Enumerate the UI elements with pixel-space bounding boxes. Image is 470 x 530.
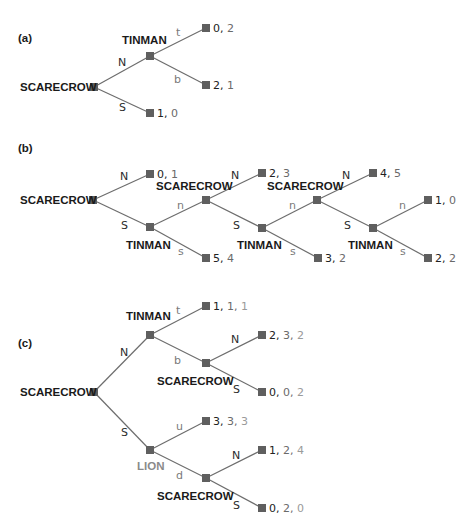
panel-b: (b) SCARECROW TINMAN SCARECROW TINMAN SC xyxy=(18,142,456,265)
terminal-node xyxy=(424,254,432,262)
move-label: S xyxy=(121,426,128,439)
panel-c: (c) SCARECROW TINMAN SCARECROW LION SCAR… xyxy=(18,300,304,515)
player-label-tinman: TINMAN xyxy=(348,239,393,251)
panel-b-label: (b) xyxy=(18,142,33,154)
payoff: 5, 4 xyxy=(213,252,234,265)
edge xyxy=(94,392,150,450)
decision-node-lion xyxy=(146,446,154,454)
move-label: d xyxy=(176,469,183,482)
terminal-node xyxy=(258,331,266,339)
payoff: 0, 2 xyxy=(213,22,234,35)
terminal-node xyxy=(202,254,210,262)
move-label: s xyxy=(400,245,406,258)
decision-node-scarecrow xyxy=(202,474,210,482)
move-label: S xyxy=(233,499,240,512)
payoff: 2, 3, 2 xyxy=(269,329,304,342)
player-label-scarecrow: SCARECROW xyxy=(157,490,234,502)
payoff: 0, 0, 2 xyxy=(269,386,304,399)
move-label: N xyxy=(231,169,239,182)
terminal-node xyxy=(369,169,377,177)
payoff: 4, 5 xyxy=(380,167,401,180)
terminal-node xyxy=(314,254,322,262)
terminal-node xyxy=(258,446,266,454)
move-label: N xyxy=(120,170,128,183)
move-label: n xyxy=(399,199,406,212)
move-label: S xyxy=(233,219,240,232)
decision-node-tinman xyxy=(146,52,154,60)
move-label: b xyxy=(174,354,181,367)
terminal-node xyxy=(202,24,210,32)
move-label: S xyxy=(344,219,351,232)
player-label-tinman: TINMAN xyxy=(122,34,167,46)
move-label: b xyxy=(174,73,181,86)
terminal-node xyxy=(424,196,432,204)
move-label: t xyxy=(176,304,181,317)
move-label: N xyxy=(342,169,350,182)
move-label: s xyxy=(178,245,184,258)
game-trees-figure: (a) SCARECROW TINMAN N S t b 0, 2 2, 1 1… xyxy=(0,0,470,530)
payoff: 1, 2, 4 xyxy=(269,444,304,457)
player-label-scarecrow: SCARECROW xyxy=(156,180,233,192)
move-label: s xyxy=(290,245,296,258)
move-label: N xyxy=(231,333,239,346)
player-label-scarecrow: SCARECROW xyxy=(20,194,97,206)
move-label: n xyxy=(289,199,296,212)
payoff: 2, 1 xyxy=(213,79,234,92)
terminal-node xyxy=(258,388,266,396)
terminal-node xyxy=(258,504,266,512)
move-label: N xyxy=(118,56,126,69)
player-label-scarecrow: SCARECROW xyxy=(20,386,97,398)
terminal-node xyxy=(202,417,210,425)
move-label: u xyxy=(176,420,183,433)
move-label: S xyxy=(121,219,128,232)
player-label-scarecrow: SCARECROW xyxy=(267,180,344,192)
terminal-node xyxy=(146,109,154,117)
decision-node-scarecrow xyxy=(202,196,210,204)
decision-node-scarecrow xyxy=(202,359,210,367)
terminal-node xyxy=(202,81,210,89)
panel-c-label: (c) xyxy=(18,337,32,349)
edge xyxy=(94,335,150,392)
payoff: 2, 3 xyxy=(269,167,290,180)
payoff: 0, 1 xyxy=(157,168,178,181)
move-label: S xyxy=(233,383,240,396)
terminal-node xyxy=(202,302,210,310)
terminal-node xyxy=(258,169,266,177)
decision-node-tinman xyxy=(369,224,377,232)
move-label: N xyxy=(120,346,128,359)
player-label-scarecrow: SCARECROW xyxy=(20,81,97,93)
payoff: 1, 1, 1 xyxy=(213,300,248,313)
decision-node-tinman xyxy=(146,223,154,231)
decision-node-tinman xyxy=(146,331,154,339)
player-label-tinman: TINMAN xyxy=(237,239,282,251)
payoff: 1, 0 xyxy=(157,107,178,120)
move-label: N xyxy=(232,449,240,462)
payoff: 2, 2 xyxy=(435,252,456,265)
player-label-tinman: TINMAN xyxy=(126,310,171,322)
payoff: 1, 0 xyxy=(435,194,456,207)
player-label-scarecrow: SCARECROW xyxy=(157,375,234,387)
move-label: t xyxy=(176,26,181,39)
move-label: n xyxy=(177,199,184,212)
payoff: 0, 2, 0 xyxy=(269,502,304,515)
payoff: 3, 2 xyxy=(325,252,346,265)
player-label-lion: LION xyxy=(137,460,164,472)
decision-node-scarecrow xyxy=(313,196,321,204)
panel-a-label: (a) xyxy=(18,32,32,44)
terminal-node xyxy=(146,170,154,178)
panel-a: (a) SCARECROW TINMAN N S t b 0, 2 2, 1 1… xyxy=(18,22,234,120)
move-label: S xyxy=(119,101,126,114)
player-label-tinman: TINMAN xyxy=(126,239,171,251)
decision-node-tinman xyxy=(258,224,266,232)
payoff: 3, 3, 3 xyxy=(213,415,248,428)
